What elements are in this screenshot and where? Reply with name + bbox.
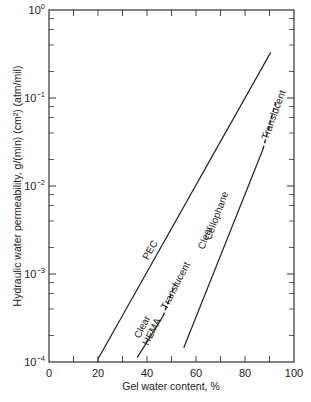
- y-tick-labels: 10010−110−210−310−4: [24, 2, 45, 368]
- y-tick-label: 10−1: [24, 90, 45, 104]
- permeability-chart: PECHEMAClearTranslucentCellophaneClearTr…: [0, 0, 311, 402]
- x-tick-label: 20: [92, 367, 104, 379]
- label-cellophane-translucent: Translucent: [259, 88, 288, 141]
- series-labels: PECHEMAClearTranslucentCellophaneClearTr…: [132, 88, 288, 347]
- label-pec-pec: PEC: [140, 238, 160, 261]
- y-tick-label: 100: [29, 2, 45, 16]
- y-tick-label: 10−4: [24, 354, 45, 368]
- x-tick-label: 60: [190, 367, 202, 379]
- cellophane-solid-line: [184, 149, 263, 347]
- x-tick-labels: 020406080100: [46, 367, 303, 379]
- series-lines: [98, 52, 276, 363]
- x-tick-label: 0: [46, 367, 52, 379]
- label-hema-translucent: Translucent: [159, 260, 193, 311]
- x-tick-label: 80: [239, 367, 251, 379]
- x-tick-label: 100: [285, 367, 303, 379]
- x-tick-label: 40: [141, 367, 153, 379]
- pec-solid-line: [98, 52, 271, 359]
- y-axis-title: Hydraulic water permeability, g/(min) (c…: [11, 66, 23, 307]
- y-tick-label: 10−3: [24, 266, 45, 280]
- plot-frame: [49, 10, 294, 362]
- x-axis-title: Gel water content, %: [122, 380, 219, 392]
- axes: [49, 10, 294, 362]
- y-tick-label: 10−2: [24, 178, 45, 192]
